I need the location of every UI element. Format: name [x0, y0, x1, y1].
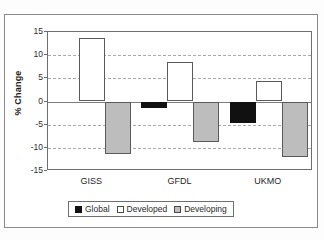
y-tick-label: -10	[3, 142, 43, 152]
bar-developing-gfdl	[193, 102, 219, 143]
x-category-label: GFDL	[135, 176, 223, 186]
chart-legend: Global Developed Developing	[68, 201, 234, 217]
plot-area	[47, 31, 312, 170]
legend-label-global: Global	[85, 204, 110, 214]
y-tick-mark	[44, 147, 47, 148]
legend-swatch-global-icon	[75, 206, 82, 213]
bar-group	[136, 32, 224, 169]
bar-group	[225, 32, 313, 169]
bars-layer	[48, 32, 311, 169]
legend-label-developed: Developed	[127, 204, 168, 214]
legend-swatch-developed-icon	[117, 206, 124, 213]
x-category-label: GISS	[47, 176, 135, 186]
y-tick-label: 15	[3, 26, 43, 36]
bar-developing-giss	[105, 102, 131, 154]
bar-global-gfdl	[141, 102, 167, 109]
y-tick-mark	[44, 101, 47, 102]
legend-item-developing: Developing	[174, 204, 227, 214]
legend-label-developing: Developing	[184, 204, 227, 214]
y-tick-mark	[44, 54, 47, 55]
y-tick-mark	[44, 170, 47, 171]
x-axis-category-labels: GISSGFDLUKMO	[47, 176, 312, 190]
y-tick-mark	[44, 124, 47, 125]
y-tick-label: -5	[3, 119, 43, 129]
y-tick-label: 0	[3, 96, 43, 106]
x-category-label: UKMO	[224, 176, 312, 186]
bar-developed-ukmo	[256, 81, 282, 102]
bar-developed-gfdl	[167, 62, 193, 102]
legend-item-global: Global	[75, 204, 110, 214]
chart-screenshot: % Change 151050-5-10-15 GISSGFDLUKMO Glo…	[0, 0, 324, 240]
bar-developed-giss	[79, 38, 105, 101]
y-tick-label: -15	[3, 165, 43, 175]
y-tick-label: 10	[3, 49, 43, 59]
bar-group	[48, 32, 136, 169]
bar-developing-ukmo	[282, 102, 308, 158]
y-tick-mark	[44, 31, 47, 32]
y-tick-label: 5	[3, 72, 43, 82]
legend-item-developed: Developed	[117, 204, 168, 214]
legend-swatch-developing-icon	[174, 206, 181, 213]
bar-global-ukmo	[230, 102, 256, 123]
y-tick-mark	[44, 77, 47, 78]
